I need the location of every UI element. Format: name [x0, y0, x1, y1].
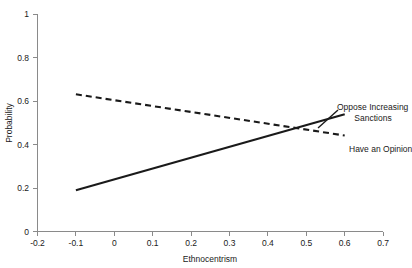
y-tick-label-5: 1: [24, 9, 29, 19]
x-tick-label-5: 0.3: [224, 238, 236, 248]
annotation-oppose-line1: Oppose Increasing: [337, 102, 409, 112]
x-tick-label-2: 0: [112, 238, 117, 248]
y-tick-label-3: 0.6: [17, 96, 29, 106]
y-tick-group: 0 0.2 0.4 0.6 0.8 1: [17, 9, 37, 236]
x-tick-label-4: 0.2: [185, 238, 197, 248]
x-tick-label-8: 0.6: [339, 238, 351, 248]
y-tick-label-0: 0: [24, 227, 29, 237]
x-tick-label-0: -0.2: [30, 238, 45, 248]
x-tick-label-1: -0.1: [69, 238, 84, 248]
y-tick-label-1: 0.2: [17, 183, 29, 193]
x-tick-label-6: 0.4: [262, 238, 274, 248]
axis-group: [38, 14, 384, 232]
annotation-oppose-line2: Sanctions: [354, 113, 391, 123]
x-tick-label-7: 0.5: [300, 238, 312, 248]
annotation-have-opinion-line1: Have an Opinion: [349, 144, 412, 154]
y-tick-label-4: 0.8: [17, 53, 29, 63]
y-tick-label-2: 0.4: [17, 140, 29, 150]
chart-canvas: 0 0.2 0.4 0.6 0.8 1 -0.2 -0.1 0 0.1 0.2 …: [0, 0, 412, 268]
y-axis-title: Probability: [4, 102, 14, 142]
x-tick-label-9: 0.7: [377, 238, 389, 248]
annotation-have-an-opinion: Have an Opinion: [349, 144, 412, 154]
leader-line-oppose: [318, 110, 338, 128]
x-axis-title: Ethnocentrism: [183, 254, 237, 264]
x-tick-group: -0.2 -0.1 0 0.1 0.2 0.3 0.4 0.5 0.6 0.7: [30, 232, 389, 249]
annotation-oppose-increasing-sanctions: Oppose Increasing Sanctions: [337, 102, 409, 123]
x-tick-label-3: 0.1: [147, 238, 159, 248]
chart-figure: 0 0.2 0.4 0.6 0.8 1 -0.2 -0.1 0 0.1 0.2 …: [0, 0, 412, 268]
series-have-an-opinion: [76, 94, 345, 135]
series-oppose-increasing-sanctions: [76, 114, 345, 190]
